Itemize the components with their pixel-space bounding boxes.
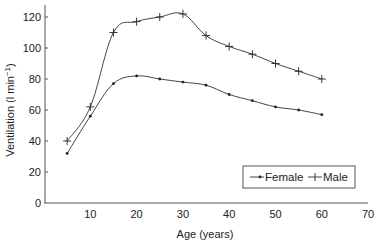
data-point-male [156, 13, 164, 21]
data-point-female [182, 81, 185, 84]
y-tick-label: 20 [29, 166, 41, 178]
data-point-male [133, 18, 141, 26]
data-point-female [228, 93, 231, 96]
x-tick-label: 50 [269, 208, 281, 220]
data-point-male [225, 42, 233, 50]
data-point-female [89, 115, 92, 118]
y-tick-label: 120 [23, 11, 41, 23]
data-point-female [320, 113, 323, 116]
series-line-female [67, 76, 322, 154]
data-point-female [251, 99, 254, 102]
x-axis-title: Age (years) [177, 228, 234, 240]
data-point-female [66, 152, 69, 155]
x-tick-label: 60 [316, 208, 328, 220]
x-tick-label: 20 [130, 208, 142, 220]
data-point-female [297, 109, 300, 112]
y-tick-label: 40 [29, 135, 41, 147]
x-tick-label: 10 [84, 208, 96, 220]
x-tick-label: 70 [362, 208, 374, 220]
data-point-male [295, 67, 303, 75]
y-tick-label: 0 [35, 197, 41, 209]
y-axis-title-suffix: ) [4, 63, 16, 67]
series-layer [63, 10, 326, 155]
data-point-male [86, 103, 94, 111]
y-axis-title-main: Ventilation (l min [4, 76, 16, 157]
legend-label-female: Female [265, 171, 303, 183]
data-point-female [158, 78, 161, 81]
data-point-male [179, 10, 187, 18]
x-ticks: 10203040506070 [84, 208, 374, 220]
data-point-male [109, 29, 117, 37]
legend-marker-dot [259, 176, 262, 179]
legend: FemaleMale [243, 166, 355, 188]
y-ticks: 020406080100120 [23, 11, 48, 209]
series-male [63, 10, 326, 145]
legend-label-male: Male [323, 171, 348, 183]
ventilation-chart: 10203040506070 020406080100120 Age (year… [0, 0, 382, 244]
x-tick-label: 30 [177, 208, 189, 220]
series-female [66, 75, 323, 155]
data-point-female [205, 84, 208, 87]
data-point-male [272, 60, 280, 68]
y-tick-label: 80 [29, 73, 41, 85]
y-tick-label: 100 [23, 42, 41, 54]
data-point-male [248, 50, 256, 58]
data-point-female [112, 82, 115, 85]
x-tick-label: 40 [223, 208, 235, 220]
data-point-female [274, 106, 277, 109]
series-line-male [67, 13, 322, 141]
data-point-male [318, 75, 326, 83]
y-tick-label: 60 [29, 104, 41, 116]
legend-items: FemaleMale [250, 171, 348, 183]
y-axis-title: Ventilation (l min−1) [3, 63, 16, 157]
data-point-female [135, 75, 138, 78]
